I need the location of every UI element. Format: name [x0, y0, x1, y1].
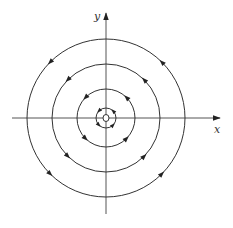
y-axis-label: y — [93, 10, 101, 23]
phase-portrait-diagram: x y — [0, 0, 233, 228]
equilibrium-point — [103, 115, 109, 122]
axes: x y — [12, 10, 221, 214]
x-axis-label: x — [214, 123, 221, 136]
